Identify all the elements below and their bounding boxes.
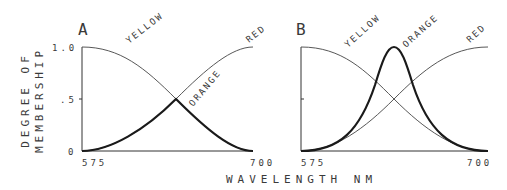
y-tick-half: .5 bbox=[60, 95, 77, 105]
y-axis-title-line1: DEGREE OF bbox=[19, 52, 32, 148]
panel-a-yellow-label: YELLOW bbox=[124, 10, 165, 45]
panel-a-red-curve bbox=[82, 47, 253, 151]
x-axis-title: WAVELENGTH NM bbox=[226, 173, 377, 186]
panel-a-letter: A bbox=[78, 20, 88, 39]
panel-a-yellow-curve bbox=[82, 47, 253, 151]
panel-b-x-max: 700 bbox=[467, 158, 492, 168]
panel-b-red-curve bbox=[301, 47, 488, 151]
panel-a-orange-label: ORANGE bbox=[187, 68, 223, 109]
y-tick-1: 1.0 bbox=[52, 43, 77, 53]
panel-b-x-min: 575 bbox=[301, 158, 326, 168]
y-tick-0: 0 bbox=[68, 147, 73, 157]
panel-a-orange-curve bbox=[82, 99, 253, 151]
panel-b-orange-label: ORANGE bbox=[401, 12, 441, 49]
y-axis-title: DEGREE OF MEMBERSHIP bbox=[19, 47, 46, 153]
panel-b: B YELLOW ORANGE RED 575 700 bbox=[296, 12, 492, 168]
panel-a-red-label: RED bbox=[244, 23, 268, 45]
panel-a: A YELLOW RED ORANGE 575 700 bbox=[78, 10, 275, 168]
panel-b-red-label: RED bbox=[465, 22, 488, 44]
panel-a-x-max: 700 bbox=[250, 158, 275, 168]
y-axis-title-line2: MEMBERSHIP bbox=[33, 47, 46, 153]
membership-charts: DEGREE OF MEMBERSHIP 1.0 .5 0 A YELLOW R… bbox=[0, 0, 507, 190]
panel-b-letter: B bbox=[296, 20, 306, 39]
panel-b-yellow-label: YELLOW bbox=[343, 12, 383, 49]
panel-a-x-min: 575 bbox=[82, 158, 107, 168]
